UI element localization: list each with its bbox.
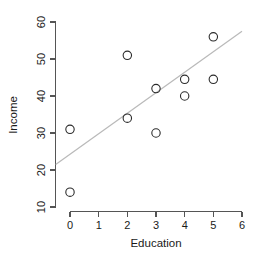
y-tick-label-60: 60: [35, 16, 47, 28]
data-point: [209, 33, 217, 41]
plot-canvas: 60 50 40 30 20 10 Income 0 1 2 3 4 5 6 E…: [0, 0, 259, 258]
data-point: [123, 114, 131, 122]
data-point: [180, 75, 188, 83]
x-tick-label-2: 2: [124, 219, 130, 231]
data-point: [152, 129, 160, 137]
y-tick-label-50: 50: [35, 53, 47, 65]
y-tick-label-20: 20: [35, 164, 47, 176]
y-axis-title: Income: [7, 96, 19, 134]
data-point: [152, 84, 160, 92]
y-tick-label-10: 10: [35, 201, 47, 213]
x-axis-title: Education: [130, 237, 181, 249]
y-tick-label-30: 30: [35, 127, 47, 139]
x-tick-label-1: 1: [96, 219, 102, 231]
data-points-group: [66, 33, 218, 197]
data-point: [180, 92, 188, 100]
y-tick-label-40: 40: [35, 90, 47, 102]
regression-line: [56, 31, 242, 164]
data-point: [66, 125, 74, 133]
x-tick-label-3: 3: [153, 219, 159, 231]
x-tick-label-0: 0: [67, 219, 73, 231]
data-point: [123, 51, 131, 59]
x-tick-label-4: 4: [182, 219, 188, 231]
x-tick-label-5: 5: [210, 219, 216, 231]
data-point: [209, 75, 217, 83]
scatter-plot-figure: 60 50 40 30 20 10 Income 0 1 2 3 4 5 6 E…: [0, 0, 259, 258]
x-tick-label-6: 6: [239, 219, 245, 231]
data-point: [66, 188, 74, 196]
